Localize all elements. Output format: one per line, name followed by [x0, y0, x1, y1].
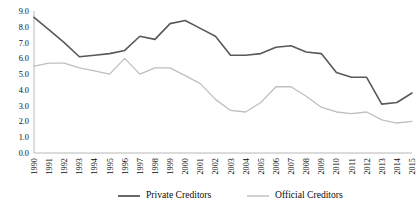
- x-tick-label: 2013: [378, 158, 387, 175]
- x-tick-label: 2005: [257, 158, 266, 175]
- y-tick-label: 1.0: [19, 133, 29, 142]
- x-tick-label: 2003: [227, 158, 236, 175]
- x-tick-label: 2007: [287, 158, 296, 175]
- series-line-private-creditors: [34, 17, 412, 104]
- chart-canvas: 9.08.07.06.05.04.03.02.01.00.0 199019911…: [0, 0, 418, 211]
- y-tick-label: 2.0: [19, 117, 29, 126]
- x-tick-label: 2014: [393, 157, 402, 174]
- x-axis-tick-labels: 1990199119921993199419951996199719981999…: [30, 157, 417, 174]
- x-tick-label: 1994: [90, 157, 99, 174]
- x-tick-label: 2002: [211, 158, 220, 175]
- y-tick-label: 8.0: [19, 23, 29, 32]
- x-tick-label: 2009: [317, 158, 326, 175]
- x-tick-label: 1999: [166, 158, 175, 175]
- x-tick-label: 1997: [136, 158, 145, 175]
- chart-legend: Private CreditorsOfficial Creditors: [118, 189, 343, 200]
- x-tick-label: 1995: [106, 158, 115, 175]
- x-tick-label: 1990: [30, 158, 39, 175]
- x-tick-label: 1993: [75, 158, 84, 175]
- x-tick-label: 1992: [60, 158, 69, 175]
- x-tick-label: 2012: [363, 158, 372, 175]
- x-tick-label: 1991: [45, 158, 54, 175]
- x-tick-label: 2010: [332, 158, 341, 175]
- line-chart: 9.08.07.06.05.04.03.02.01.00.0 199019911…: [0, 0, 418, 211]
- legend-label-official: Official Creditors: [275, 189, 343, 200]
- legend-label-private: Private Creditors: [146, 189, 212, 200]
- y-tick-label: 4.0: [19, 86, 29, 95]
- x-tick-label: 2015: [408, 158, 417, 175]
- y-tick-label: 0.0: [19, 149, 29, 158]
- x-tick-label: 2008: [302, 158, 311, 175]
- y-tick-label: 9.0: [19, 7, 29, 16]
- y-tick-label: 6.0: [19, 54, 29, 63]
- series-line-official-creditors: [34, 58, 412, 123]
- x-tick-label: 2011: [348, 158, 357, 174]
- x-tick-label: 1998: [151, 158, 160, 175]
- x-tick-label: 2000: [181, 158, 190, 175]
- y-tick-label: 5.0: [19, 70, 29, 79]
- y-tick-label: 3.0: [19, 102, 29, 111]
- y-tick-label: 7.0: [19, 39, 29, 48]
- x-tick-label: 1996: [121, 158, 130, 175]
- x-tick-label: 2006: [272, 158, 281, 175]
- y-axis-tick-labels: 9.08.07.06.05.04.03.02.01.00.0: [19, 7, 29, 158]
- x-tick-label: 2004: [242, 157, 251, 174]
- series-lines: [34, 17, 412, 123]
- x-tick-label: 2001: [196, 158, 205, 175]
